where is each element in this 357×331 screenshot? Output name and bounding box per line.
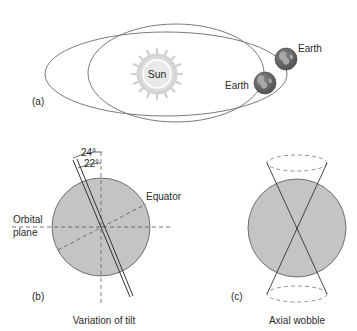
panel-a-label: (a) [32,96,44,107]
panel-c-caption: Axial wobble [269,315,326,326]
sun-label: Sun [148,68,167,80]
panel-b-tilt: 24° 22° Equator Orbital plane (b) Variat… [12,147,182,326]
panel-c-wobble: (c) Axial wobble [231,155,346,326]
precession-cone-bottom [267,286,327,302]
earth-icon [275,48,297,70]
earth-label-upper: Earth [298,43,322,54]
earth-label-lower: Earth [225,80,249,91]
panel-c-label: (c) [231,291,243,302]
panel-b-label: (b) [32,291,44,302]
orbital-plane-label-line1: Orbital [13,214,42,225]
earth-icon [254,72,276,94]
orbital-plane-label-line2: plane [13,227,38,238]
equator-label: Equator [146,191,182,202]
precession-cone-top [267,155,327,171]
panel-b-caption: Variation of tilt [73,315,136,326]
angle-22-label: 22° [84,158,99,169]
milankovitch-diagram: Sun Earth Earth (a) 24° 22° [0,0,357,331]
panel-a-eccentricity: Sun Earth Earth (a) [32,24,322,122]
angle-24-label: 24° [81,147,96,158]
